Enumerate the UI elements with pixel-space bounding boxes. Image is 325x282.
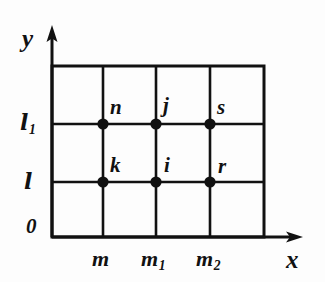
node-label-k: k <box>110 155 121 176</box>
node-label-n: n <box>110 97 122 118</box>
node-label-r: r <box>218 156 226 177</box>
x-tick-m2-subscript: 2 <box>214 258 221 273</box>
x-axis-label: x <box>286 247 299 272</box>
grid-diagram-figure: y x 0 l1 l m m1 m2 n j s k i r <box>0 0 325 282</box>
x-tick-m1-base: m <box>141 246 158 271</box>
y-axis-label: y <box>22 26 33 51</box>
x-tick-label-m1: m1 <box>141 248 166 270</box>
y-tick-l1-subscript: 1 <box>29 122 36 137</box>
origin-label: 0 <box>26 216 37 237</box>
node-dot-r <box>204 176 215 187</box>
node-dot-k <box>97 176 108 187</box>
x-tick-m2-base: m <box>196 246 213 271</box>
node-label-s: s <box>217 97 225 118</box>
horizontal-gridlines <box>52 124 264 182</box>
y-tick-label-l1: l1 <box>20 111 36 134</box>
node-label-i: i <box>164 155 170 176</box>
x-tick-m1-subscript: 1 <box>159 258 166 273</box>
grid-outer-rectangle <box>52 66 264 237</box>
node-label-j: j <box>163 95 169 116</box>
node-dot-i <box>150 176 161 187</box>
node-dot-s <box>204 118 215 129</box>
diagram-canvas <box>0 0 325 282</box>
node-dot-n <box>97 118 108 129</box>
y-tick-l-base: l <box>24 168 33 194</box>
y-tick-label-l: l <box>24 170 33 193</box>
x-tick-label-m2: m2 <box>196 248 221 270</box>
x-tick-m-base: m <box>92 246 109 271</box>
x-tick-label-m: m <box>92 248 109 270</box>
y-tick-l1-base: l <box>20 109 29 135</box>
vertical-gridlines <box>103 66 210 237</box>
node-dot-j <box>150 118 161 129</box>
